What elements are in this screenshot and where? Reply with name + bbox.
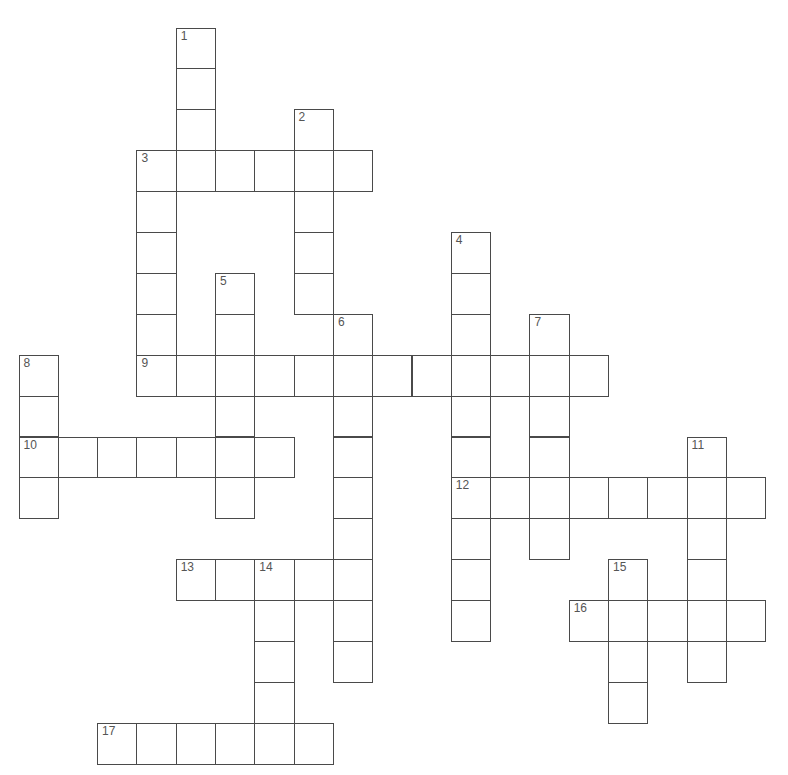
crossword-cell[interactable]: 1 xyxy=(176,28,216,70)
crossword-cell[interactable]: 9 xyxy=(136,355,176,397)
crossword-cell[interactable]: 10 xyxy=(19,437,59,479)
crossword-cell[interactable] xyxy=(294,191,334,233)
crossword-cell[interactable] xyxy=(647,477,687,519)
crossword-cell[interactable] xyxy=(294,355,334,397)
crossword-cell[interactable]: 5 xyxy=(215,273,255,315)
clue-number: 11 xyxy=(692,439,704,452)
crossword-cell[interactable] xyxy=(254,641,294,683)
crossword-cell[interactable] xyxy=(176,68,216,110)
crossword-cell[interactable] xyxy=(726,477,766,519)
crossword-cell[interactable]: 16 xyxy=(569,600,609,642)
crossword-cell[interactable] xyxy=(254,600,294,642)
crossword-cell[interactable] xyxy=(372,355,412,397)
crossword-cell[interactable] xyxy=(176,437,216,479)
crossword-cell[interactable] xyxy=(333,355,373,397)
crossword-cell[interactable] xyxy=(529,437,569,479)
crossword-cell[interactable] xyxy=(333,437,373,479)
crossword-cell[interactable] xyxy=(333,150,373,192)
crossword-cell[interactable] xyxy=(254,723,294,765)
crossword-cell[interactable] xyxy=(176,109,216,151)
crossword-cell[interactable]: 4 xyxy=(451,232,491,274)
crossword-cell[interactable] xyxy=(451,600,491,642)
crossword-cell[interactable] xyxy=(333,559,373,601)
crossword-cell[interactable] xyxy=(687,600,727,642)
crossword-cell[interactable] xyxy=(136,437,176,479)
crossword-cell[interactable] xyxy=(529,518,569,560)
crossword-cell[interactable]: 6 xyxy=(333,314,373,356)
crossword-cell[interactable] xyxy=(333,477,373,519)
crossword-cell[interactable] xyxy=(529,396,569,438)
crossword-cell[interactable] xyxy=(97,437,137,479)
crossword-cell[interactable] xyxy=(136,314,176,356)
crossword-cell[interactable]: 11 xyxy=(687,437,727,479)
crossword-cell[interactable]: 12 xyxy=(451,477,491,519)
crossword-cell[interactable] xyxy=(254,355,294,397)
crossword-cell[interactable] xyxy=(254,682,294,724)
crossword-cell[interactable] xyxy=(215,477,255,519)
crossword-cell[interactable]: 14 xyxy=(254,559,294,601)
crossword-cell[interactable] xyxy=(176,150,216,192)
crossword-cell[interactable] xyxy=(569,355,609,397)
crossword-cell[interactable]: 2 xyxy=(294,109,334,151)
crossword-cell[interactable] xyxy=(687,641,727,683)
crossword-cell[interactable] xyxy=(294,150,334,192)
crossword-cell[interactable] xyxy=(333,396,373,438)
crossword-cell[interactable] xyxy=(687,477,727,519)
crossword-cell[interactable] xyxy=(451,355,491,397)
crossword-cell[interactable]: 3 xyxy=(136,150,176,192)
crossword-cell[interactable] xyxy=(294,273,334,315)
crossword-cell[interactable] xyxy=(451,518,491,560)
clue-number: 3 xyxy=(141,152,148,165)
crossword-cell[interactable] xyxy=(215,314,255,356)
crossword-cell[interactable] xyxy=(215,355,255,397)
crossword-cell[interactable] xyxy=(19,477,59,519)
crossword-cell[interactable] xyxy=(136,723,176,765)
crossword-cell[interactable] xyxy=(608,600,648,642)
crossword-cell[interactable] xyxy=(687,518,727,560)
crossword-cell[interactable] xyxy=(451,437,491,479)
crossword-cell[interactable] xyxy=(294,559,334,601)
crossword-grid: 1239412567810111314151617 xyxy=(0,0,788,775)
crossword-cell[interactable] xyxy=(647,600,687,642)
crossword-cell[interactable]: 15 xyxy=(608,559,648,601)
crossword-cell[interactable] xyxy=(608,641,648,683)
crossword-cell[interactable] xyxy=(215,559,255,601)
crossword-cell[interactable] xyxy=(333,518,373,560)
crossword-cell[interactable]: 13 xyxy=(176,559,216,601)
crossword-cell[interactable] xyxy=(451,314,491,356)
crossword-cell[interactable]: 17 xyxy=(97,723,137,765)
crossword-cell[interactable] xyxy=(608,477,648,519)
crossword-cell[interactable] xyxy=(176,723,216,765)
crossword-cell[interactable]: 7 xyxy=(529,314,569,356)
crossword-cell[interactable] xyxy=(176,355,216,397)
crossword-cell[interactable] xyxy=(451,559,491,601)
crossword-cell[interactable] xyxy=(333,600,373,642)
crossword-cell[interactable] xyxy=(412,355,452,397)
crossword-cell[interactable] xyxy=(529,355,569,397)
crossword-cell[interactable] xyxy=(726,600,766,642)
crossword-cell[interactable] xyxy=(529,477,569,519)
crossword-cell[interactable] xyxy=(215,723,255,765)
crossword-cell[interactable] xyxy=(58,437,98,479)
crossword-cell[interactable]: 8 xyxy=(19,355,59,397)
crossword-cell[interactable] xyxy=(136,191,176,233)
clue-number: 16 xyxy=(574,602,587,615)
crossword-cell[interactable] xyxy=(215,396,255,438)
crossword-cell[interactable] xyxy=(254,437,294,479)
crossword-cell[interactable] xyxy=(215,437,255,479)
crossword-cell[interactable] xyxy=(294,723,334,765)
crossword-cell[interactable] xyxy=(19,396,59,438)
crossword-cell[interactable] xyxy=(136,273,176,315)
crossword-cell[interactable] xyxy=(569,477,609,519)
crossword-cell[interactable] xyxy=(215,150,255,192)
crossword-cell[interactable] xyxy=(490,355,530,397)
crossword-cell[interactable] xyxy=(294,232,334,274)
crossword-cell[interactable] xyxy=(136,232,176,274)
crossword-cell[interactable] xyxy=(687,559,727,601)
crossword-cell[interactable] xyxy=(254,150,294,192)
crossword-cell[interactable] xyxy=(451,273,491,315)
crossword-cell[interactable] xyxy=(451,396,491,438)
crossword-cell[interactable] xyxy=(490,477,530,519)
crossword-cell[interactable] xyxy=(608,682,648,724)
crossword-cell[interactable] xyxy=(333,641,373,683)
